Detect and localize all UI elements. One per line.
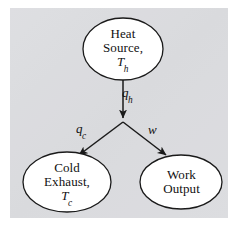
edge-label-w: w	[148, 122, 157, 138]
qh-subscript-h: h	[128, 95, 133, 105]
qc-subscript-c: c	[82, 131, 86, 141]
diagram-screenshot: Heat Source, Th Cold Exhaust, Tc Work Ou…	[0, 0, 247, 231]
edge-label-qh: qh	[122, 85, 133, 103]
work-output-line-1: Work	[140, 168, 223, 182]
cold-exhaust-temperature-symbol: Tc	[23, 189, 111, 206]
heat-source-line-2: Source,	[83, 41, 163, 55]
node-label-heat-source: Heat Source, Th	[83, 27, 163, 72]
cold-exhaust-line-2: Exhaust,	[23, 175, 111, 189]
heat-source-line-1: Heat	[83, 27, 163, 41]
work-output-line-2: Output	[140, 182, 223, 196]
edge-w-arrow	[123, 122, 166, 155]
node-label-cold-exhaust: Cold Exhaust, Tc	[23, 161, 111, 206]
node-label-work-output: Work Output	[140, 168, 223, 196]
w-symbol: w	[148, 122, 157, 137]
heat-source-temperature-symbol: Th	[83, 55, 163, 72]
cold-exhaust-line-1: Cold	[23, 161, 111, 175]
heat-source-subscript-h: h	[124, 64, 129, 74]
cold-exhaust-subscript-c: c	[68, 198, 72, 208]
edge-label-qc: qc	[76, 121, 87, 139]
